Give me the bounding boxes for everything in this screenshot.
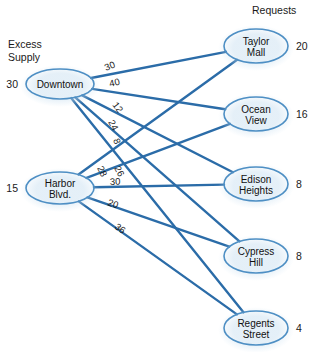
excess-supply-header-line2: Supply [8, 51, 41, 63]
network-diagram: Downtown30HarborBlvd.15TaylorMall20Ocean… [0, 0, 322, 352]
node-harbor-blvd[interactable]: HarborBlvd.15 [6, 168, 100, 212]
edge-cost-downtown-ocean-view: 40 [108, 76, 121, 89]
node-cypress-hill[interactable]: CypressHill8 [218, 235, 302, 281]
edge-cost-downtown-cypress-hill: 24 [106, 118, 121, 133]
edge-cost-harbor-edison-heights: 30 [110, 176, 121, 187]
request-amount-ocean-view: 16 [296, 108, 308, 120]
network-graph-canvas: Downtown30HarborBlvd.15TaylorMall20Ocean… [0, 0, 322, 352]
request-amount-regents-street: 4 [296, 322, 302, 334]
edge-downtown-regents-street [71, 98, 243, 312]
request-amount-edison-heights: 8 [296, 178, 302, 190]
edge-cost-harbor-taylor-mall: 28 [95, 164, 110, 178]
request-amount-taylor-mall: 20 [296, 40, 308, 52]
node-label: Ocean [241, 104, 270, 115]
node-label: Heights [239, 185, 273, 196]
node-label: Downtown [37, 79, 84, 90]
nodes-layer: Downtown30HarborBlvd.15TaylorMall20Ocean… [6, 25, 308, 352]
supply-amount-downtown: 30 [6, 78, 18, 90]
node-ocean-view[interactable]: OceanView16 [218, 93, 308, 139]
node-taylor-mall[interactable]: TaylorMall20 [218, 25, 308, 71]
node-label: Hill [249, 257, 263, 268]
node-label: Street [243, 329, 270, 340]
node-label: View [245, 115, 267, 126]
node-label: Regents [237, 318, 274, 329]
node-downtown[interactable]: Downtown30 [6, 65, 100, 107]
node-label: Taylor [243, 36, 270, 47]
edge-cost-downtown-taylor-mall: 30 [103, 59, 117, 73]
node-label: Edison [241, 174, 272, 185]
node-label: Cypress [238, 246, 275, 257]
node-label: Mall [247, 47, 265, 58]
supply-amount-harbor-blvd: 15 [6, 182, 18, 194]
requests-header: Requests [252, 4, 296, 16]
excess-supply-header-line1: Excess [8, 38, 42, 50]
node-regents-street[interactable]: RegentsStreet4 [218, 307, 302, 352]
request-amount-cypress-hill: 8 [296, 250, 302, 262]
edge-cost-downtown-edison-heights: 12 [110, 100, 125, 115]
node-edison-heights[interactable]: EdisonHeights8 [218, 163, 302, 209]
node-label: Harbor [45, 178, 76, 189]
node-label: Blvd. [49, 189, 71, 200]
